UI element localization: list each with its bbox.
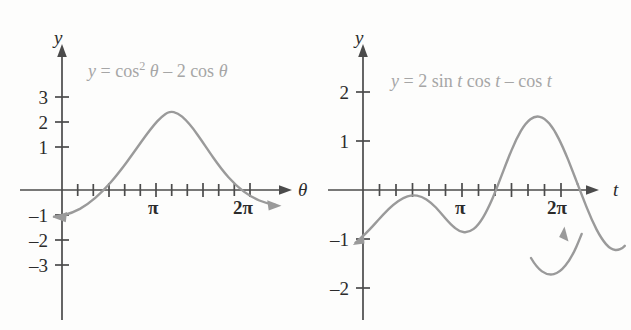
right-y-tick-2: 2 [322, 83, 349, 102]
left-y-tick-3: 3 [20, 88, 48, 107]
right-plot-svg [316, 0, 631, 330]
right-curve-start-arrow [353, 233, 365, 245]
left-curve-start-arrow [53, 212, 68, 222]
left-x-axis-label: θ [298, 180, 307, 199]
left-curve-end-arrow [267, 200, 281, 210]
left-y-tick-minus-3: –3 [12, 256, 48, 275]
left-y-axis-label: y [54, 28, 62, 47]
right-equation: y = 2 sin t cos t – cos t [391, 72, 552, 90]
right-x-tick-2pi: 2π [547, 198, 567, 217]
trig-graphs-figure: y θ 3 2 1 –1 –2 –3 π 2π y = cos2 θ – 2 c… [0, 0, 631, 330]
left-x-tick-pi: π [148, 198, 158, 217]
left-plot-svg [0, 0, 316, 330]
left-x-tick-2pi: 2π [233, 198, 253, 217]
right-y-axis-label: y [355, 28, 363, 47]
left-y-axis [57, 44, 67, 320]
graph-panel-right: y t 2 1 –1 –2 π 2π y = 2 sin t cos t – c… [316, 0, 631, 330]
left-y-tick-1: 1 [20, 138, 48, 157]
left-y-tick-2: 2 [20, 113, 48, 132]
left-y-tick-minus-1: –1 [12, 206, 48, 225]
graph-panel-left: y θ 3 2 1 –1 –2 –3 π 2π y = cos2 θ – 2 c… [0, 0, 316, 330]
left-y-tick-minus-2: –2 [12, 231, 48, 250]
right-y-tick-1: 1 [322, 132, 349, 151]
right-y-axis [358, 44, 368, 320]
right-y-tick-minus-1: –1 [316, 230, 349, 249]
left-equation: y = cos2 θ – 2 cos θ [88, 62, 227, 80]
right-x-tick-pi: π [455, 198, 465, 217]
right-x-axis-label: t [613, 180, 618, 199]
right-y-tick-minus-2: –2 [316, 279, 349, 298]
right-curve [356, 117, 578, 243]
right-x-axis [328, 185, 599, 195]
